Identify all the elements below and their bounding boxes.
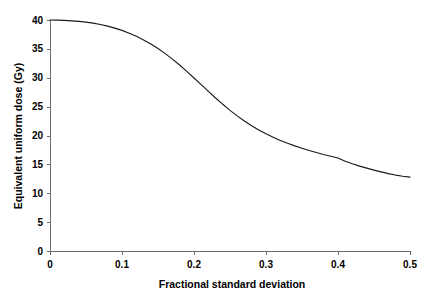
x-tick-label: 0.2 bbox=[187, 259, 201, 270]
y-tick-label: 35 bbox=[32, 43, 44, 54]
y-tick-label: 0 bbox=[37, 246, 43, 257]
x-axis-title: Fractional standard deviation bbox=[159, 278, 305, 290]
y-axis-title: Equivalent uniform dose (Gy) bbox=[12, 63, 24, 209]
x-tick-label: 0.4 bbox=[331, 259, 345, 270]
y-tick-label: 10 bbox=[32, 188, 44, 199]
y-axis-ticks: 0510152025303540 bbox=[32, 15, 50, 257]
chart-page: 0510152025303540 00.10.20.30.40.5 Fracti… bbox=[0, 0, 424, 300]
y-tick-label: 20 bbox=[32, 130, 44, 141]
y-tick-label: 5 bbox=[37, 217, 43, 228]
y-tick-label: 15 bbox=[32, 159, 44, 170]
x-tick-label: 0.3 bbox=[259, 259, 273, 270]
x-tick-label: 0.5 bbox=[403, 259, 417, 270]
x-axis-ticks: 00.10.20.30.40.5 bbox=[47, 251, 417, 270]
line-chart: 0510152025303540 00.10.20.30.40.5 Fracti… bbox=[0, 0, 424, 300]
data-series-curve bbox=[50, 20, 410, 177]
y-tick-label: 25 bbox=[32, 101, 44, 112]
y-tick-label: 40 bbox=[32, 15, 44, 26]
plot-area: 0510152025303540 00.10.20.30.40.5 bbox=[32, 15, 418, 271]
y-tick-label: 30 bbox=[32, 72, 44, 83]
x-tick-label: 0.1 bbox=[115, 259, 129, 270]
x-tick-label: 0 bbox=[47, 259, 53, 270]
